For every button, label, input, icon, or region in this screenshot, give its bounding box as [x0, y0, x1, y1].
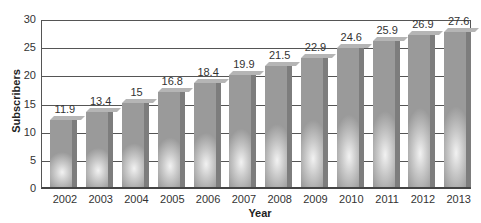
- x-axis-label: Year: [230, 207, 290, 219]
- subscribers-bar-chart: Subscribers 051015202530 11.913.41516.81…: [0, 0, 481, 223]
- bar-2013: [444, 32, 471, 187]
- y-tick-label: 30: [14, 13, 36, 25]
- value-label: 26.9: [403, 18, 443, 30]
- y-tick-label: 10: [14, 126, 36, 138]
- x-tick-label: 2008: [262, 193, 298, 205]
- value-label: 15: [117, 86, 157, 98]
- x-tick-label: 2010: [333, 193, 369, 205]
- bar-2002: [50, 120, 77, 187]
- x-tick-label: 2002: [47, 193, 83, 205]
- bar-2011: [373, 41, 400, 187]
- x-tick-label: 2006: [190, 193, 226, 205]
- bar-2010: [337, 48, 364, 187]
- value-label: 13.4: [81, 95, 121, 107]
- bar-2003: [86, 112, 113, 187]
- bar-top-face: [86, 108, 121, 112]
- bar-2008: [265, 66, 292, 187]
- bar-2012: [408, 35, 435, 187]
- y-tick-label: 20: [14, 69, 36, 81]
- value-label: 18.4: [188, 66, 228, 78]
- bar-top-face: [408, 31, 443, 35]
- bar-2007: [229, 75, 256, 187]
- x-tick-label: 2012: [405, 193, 441, 205]
- value-label: 22.9: [296, 41, 336, 53]
- bar-top-face: [337, 44, 372, 48]
- bar-top-face: [194, 79, 229, 83]
- y-tick-label: 5: [14, 154, 36, 166]
- value-label: 11.9: [45, 103, 85, 115]
- bar-2009: [301, 58, 328, 187]
- x-tick-label: 2007: [226, 193, 262, 205]
- x-tick-label: 2009: [298, 193, 334, 205]
- bar-2005: [158, 92, 185, 187]
- bar-top-face: [50, 116, 85, 120]
- y-tick-label: 15: [14, 98, 36, 110]
- x-tick-label: 2004: [119, 193, 155, 205]
- bar-top-face: [122, 99, 157, 103]
- bar-top-face: [265, 62, 300, 66]
- value-label: 27.6: [439, 15, 479, 27]
- value-label: 21.5: [260, 49, 300, 61]
- bar-top-face: [373, 37, 408, 41]
- x-tick-label: 2005: [154, 193, 190, 205]
- x-tick-label: 2003: [83, 193, 119, 205]
- bar-top-face: [158, 88, 193, 92]
- bar-top-face: [229, 71, 264, 75]
- x-tick-label: 2011: [369, 193, 405, 205]
- bar-2006: [194, 83, 221, 187]
- bar-top-face: [444, 28, 479, 32]
- x-tick-label: 2013: [441, 193, 477, 205]
- y-tick-label: 0: [14, 182, 36, 194]
- value-label: 19.9: [224, 58, 264, 70]
- y-tick-label: 25: [14, 41, 36, 53]
- bar-2004: [122, 103, 149, 188]
- value-label: 16.8: [152, 75, 192, 87]
- bar-top-face: [301, 54, 336, 58]
- value-label: 24.6: [331, 31, 371, 43]
- gridline: [42, 48, 470, 49]
- value-label: 25.9: [367, 24, 407, 36]
